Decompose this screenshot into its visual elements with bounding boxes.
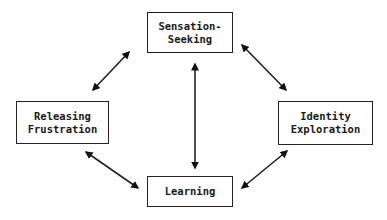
- arrow-sensation-releasing: [93, 52, 129, 90]
- node-label: Sensation- Seeking: [158, 20, 221, 46]
- node-releasing-frustration: Releasing Frustration: [16, 101, 109, 144]
- node-identity-exploration: Identity Exploration: [278, 101, 373, 145]
- arrow-releasing-learning: [86, 152, 138, 188]
- node-learning: Learning: [147, 176, 233, 207]
- arrow-identity-learning: [242, 151, 287, 188]
- arrow-sensation-identity: [242, 45, 286, 90]
- node-sensation-seeking: Sensation- Seeking: [147, 12, 233, 53]
- node-label: Releasing Frustration: [28, 110, 98, 136]
- node-label: Learning: [165, 185, 216, 198]
- node-label: Identity Exploration: [291, 110, 361, 136]
